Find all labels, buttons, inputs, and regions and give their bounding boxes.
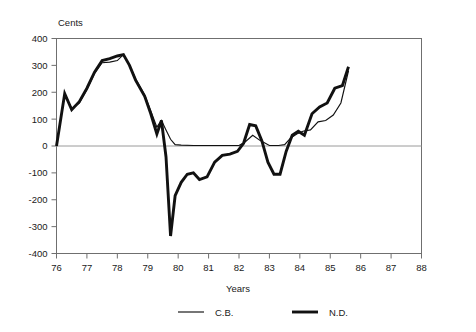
y-tick-label: 200	[32, 87, 48, 98]
legend-label-cb: C.B.	[215, 307, 233, 318]
x-tick-label: 81	[203, 262, 214, 273]
x-tick-label: 79	[142, 262, 153, 273]
y-tick-label: -100	[28, 167, 47, 178]
y-axis-title: Cents	[58, 17, 83, 28]
x-tick-label: 85	[325, 262, 336, 273]
y-tick-label: -300	[28, 221, 47, 232]
x-tick-label: 86	[355, 262, 366, 273]
y-tick-label: 300	[32, 60, 48, 71]
x-axis-title: Years	[226, 283, 250, 294]
y-tick-label: -400	[28, 248, 47, 259]
x-tick-label: 88	[416, 262, 427, 273]
x-tick-label: 80	[173, 262, 184, 273]
x-tick-label: 77	[82, 262, 93, 273]
x-tick-label: 84	[295, 262, 306, 273]
x-tick-label: 83	[264, 262, 275, 273]
y-tick-label: 0	[42, 140, 47, 151]
x-tick-label: 87	[386, 262, 397, 273]
y-tick-label: -200	[28, 194, 47, 205]
y-tick-label: 100	[32, 114, 48, 125]
x-tick-label: 76	[51, 262, 62, 273]
x-tick-label: 78	[112, 262, 123, 273]
line-chart: Cents 4003002001000-100-200-300-400 7677…	[0, 0, 476, 332]
x-tick-label: 82	[234, 262, 245, 273]
y-tick-label: 400	[32, 33, 48, 44]
chart-figure: Cents 4003002001000-100-200-300-400 7677…	[0, 0, 476, 332]
legend-label-nd: N.D.	[329, 307, 348, 318]
